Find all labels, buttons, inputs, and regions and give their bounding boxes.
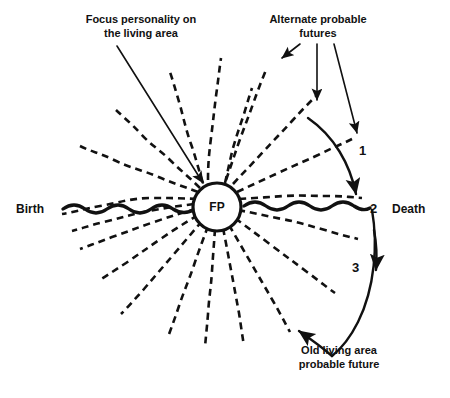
ray [205, 229, 215, 347]
ray [168, 226, 208, 337]
old-area-annotation-line2: probable future [299, 358, 380, 370]
alternate-futures-annotation: Alternate probable futures [269, 13, 366, 133]
fp-label: FP [209, 200, 224, 214]
alternate-annotation-line2: futures [299, 27, 336, 39]
alternate-pointer-left [282, 44, 300, 58]
point-label-3: 3 [352, 260, 359, 275]
ray [223, 228, 244, 346]
old-living-area-annotation: Old living area probable future [299, 344, 380, 370]
focus-personality-node: FP [193, 183, 241, 231]
death-label: Death [392, 202, 425, 216]
timeline-right-wave [244, 202, 370, 210]
old-area-annotation-line1: Old living area [301, 344, 378, 356]
ray [113, 107, 200, 188]
ray [170, 72, 203, 183]
focus-personality-annotation: Focus personality on the living area [86, 13, 203, 183]
ray [226, 70, 266, 180]
birth-label: Birth [16, 202, 44, 216]
point-label-2: 2 [370, 201, 377, 216]
point-label-1: 1 [359, 143, 366, 158]
focus-annotation-pointer [117, 46, 203, 183]
ray [80, 209, 196, 249]
focus-annotation-line2: the living area [104, 27, 179, 39]
ray [121, 221, 202, 314]
ray [225, 88, 252, 183]
alternate-pointer-right [334, 44, 357, 133]
diagram-canvas: FP 1 2 3 Birth Death Focus personality o… [0, 0, 450, 398]
ray [237, 139, 352, 192]
focus-annotation-line1: Focus personality on [86, 13, 197, 25]
ray [208, 58, 221, 180]
ray [72, 204, 194, 231]
arc-segment-2-to-3 [332, 210, 375, 356]
probable-futures-diagram: FP 1 2 3 Birth Death Focus personality o… [0, 0, 450, 398]
alternate-annotation-line1: Alternate probable [269, 13, 366, 25]
ray [239, 196, 362, 199]
